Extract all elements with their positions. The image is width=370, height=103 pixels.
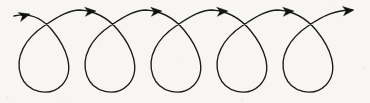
cycloid-curve-path	[14, 10, 352, 92]
looping-curve-diagram	[0, 0, 370, 103]
figure-canvas	[0, 0, 370, 103]
